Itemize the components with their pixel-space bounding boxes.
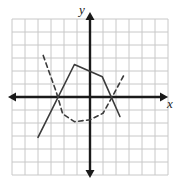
x-axis-label: x — [166, 96, 173, 111]
coordinate-graph-figure: xy x y — [0, 0, 181, 180]
y-axis-label: y — [77, 2, 85, 17]
y-axis-arrow-up — [86, 12, 95, 20]
curve-dashed-curve — [43, 55, 125, 121]
axes — [8, 12, 168, 178]
y-axis-arrow-down — [86, 170, 95, 178]
graph-canvas: xy — [0, 0, 181, 180]
